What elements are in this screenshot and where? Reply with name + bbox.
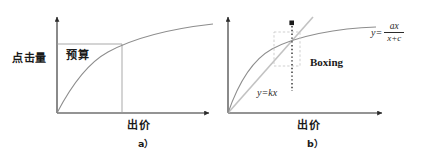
figure-canvas [0,0,427,158]
panel-b-caption: b） [307,139,324,149]
panel-a-x-axis-label: 出价 [127,120,150,131]
panel-a-y-axis-label: 点击量 [12,53,47,64]
panel-b-formula-lhs: y= [371,28,382,38]
panel-a-graphics [57,17,213,113]
panel-b-graphics [228,17,382,113]
panel-b-linear-series-label: y=kx [257,88,277,98]
panel-a-caption: a） [138,139,154,149]
panel-b-formula-numerator: ax [388,22,401,32]
panel-b-formula-fraction: ax x+c [384,22,404,43]
panel-b-formula-denominator: x+c [385,33,403,43]
panel-b-saturating-curve [228,27,376,113]
panel-a-click-curve [57,24,213,113]
panel-b-curve-formula-label: y= ax x+c [371,22,404,43]
panel-b-boxing-label: Boxing [310,57,343,68]
panel-b-optimum-dot [289,21,294,26]
panel-a-budget-region-label: 预算 [66,50,89,61]
panel-b-x-axis-label: 出价 [297,120,320,131]
figure-root: 点击量 预算 出价 a） y=kx Boxing y= ax x+c 出价 b） [0,0,427,158]
